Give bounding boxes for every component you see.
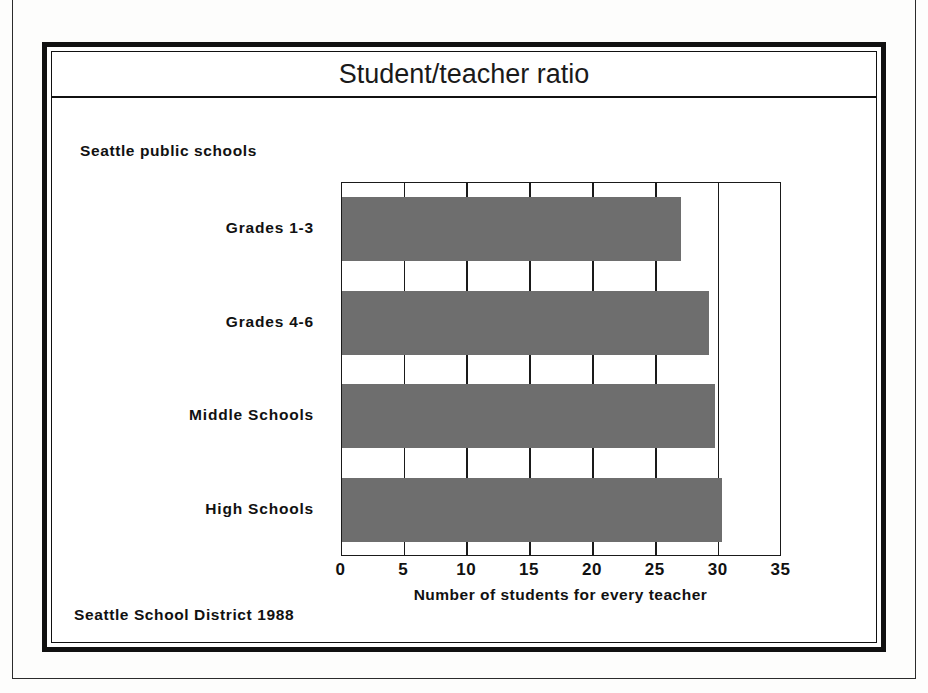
x-tick-label: 5 [398, 560, 408, 580]
category-label: Middle Schools [189, 406, 314, 424]
page-rule-right [915, 0, 916, 679]
figure-frame: Student/teacher ratio Seattle public sch… [42, 42, 886, 652]
bar [342, 291, 709, 355]
x-tick-label: 25 [645, 560, 665, 580]
bar [342, 384, 715, 448]
bar [342, 197, 681, 261]
x-axis-title: Number of students for every teacher [341, 586, 781, 604]
page-rule-left [12, 0, 13, 679]
chart-title: Student/teacher ratio [339, 61, 590, 88]
bar [342, 478, 723, 542]
plot-area [341, 182, 781, 556]
source-note: Seattle School District 1988 [74, 606, 294, 624]
category-label: High Schools [205, 500, 314, 518]
category-axis-labels: Grades 1-3Grades 4-6Middle SchoolsHigh S… [52, 182, 328, 556]
chart-subtitle: Seattle public schools [80, 142, 257, 160]
bar-series [342, 183, 780, 555]
scanned-page: Student/teacher ratio Seattle public sch… [0, 0, 928, 693]
x-tick-label: 15 [519, 560, 539, 580]
category-label: Grades 1-3 [226, 219, 314, 237]
x-tick-label: 30 [708, 560, 728, 580]
title-band: Student/teacher ratio [52, 52, 876, 98]
x-tick-label: 35 [771, 560, 791, 580]
x-tick-label: 10 [456, 560, 476, 580]
x-tick-label: 0 [336, 560, 346, 580]
x-axis-tick-labels: 05101520253035 [341, 560, 781, 582]
category-label: Grades 4-6 [226, 313, 314, 331]
figure-inner-border: Student/teacher ratio Seattle public sch… [51, 51, 877, 643]
figure-body: Seattle public schools Grades 1-3Grades … [52, 98, 876, 642]
x-tick-label: 20 [582, 560, 602, 580]
page-rule-bottom [12, 678, 916, 679]
